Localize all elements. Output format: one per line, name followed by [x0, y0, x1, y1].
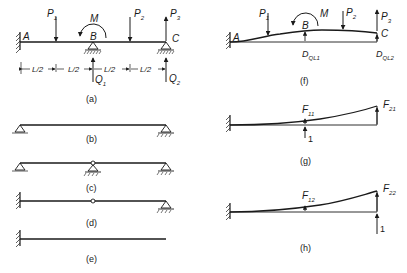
span-label-3: L/2 [104, 65, 116, 74]
label-p1: P1 [259, 8, 269, 21]
label-f12: F12 [302, 190, 315, 203]
hinge-icon [91, 199, 95, 203]
caption-g: (g) [300, 156, 311, 166]
label-p2: P2 [134, 8, 145, 21]
caption-h: (h) [300, 243, 311, 253]
label-q2: Q2 [169, 73, 181, 86]
unit-load-label: 1 [308, 134, 313, 144]
pin-support-icon [12, 163, 28, 171]
caption-d: (d) [86, 218, 97, 228]
panel-e [16, 230, 166, 247]
label-c: C [172, 33, 180, 44]
label-m: M [320, 8, 329, 19]
label-dql2: DQL2 [376, 49, 395, 61]
roller-support-b-icon [84, 42, 101, 54]
caption-b: (b) [86, 134, 97, 144]
label-f22: F22 [383, 183, 396, 196]
label-p2: P2 [346, 7, 357, 20]
label-p1: P1 [47, 8, 57, 21]
roller-support-icon [84, 165, 101, 176]
panel-c [12, 161, 174, 176]
label-p3: P3 [381, 11, 392, 24]
label-f11: F11 [302, 104, 314, 117]
span-label-1: L/2 [32, 65, 44, 74]
caption-c: (c) [86, 183, 97, 193]
label-m: M [90, 13, 99, 24]
caption-a: (a) [86, 94, 97, 104]
unit-load-label: 1 [380, 224, 385, 234]
label-dql1: DQL1 [302, 49, 320, 61]
label-f21: F21 [383, 99, 396, 112]
label-a: A [232, 32, 240, 43]
span-label-4: L/2 [140, 65, 152, 74]
deflected-beam [230, 30, 377, 42]
roller-support-icon [157, 125, 174, 137]
label-c: C [381, 28, 389, 39]
label-q1: Q1 [95, 74, 106, 87]
roller-support-icon [157, 163, 174, 175]
caption-f: (f) [300, 76, 309, 86]
caption-e: (e) [86, 254, 97, 264]
panel-d [16, 192, 174, 213]
roller-support-icon [157, 201, 174, 213]
pin-support-icon [12, 125, 28, 133]
label-a: A [22, 31, 30, 42]
structural-diagram: A B C M P1 P2 P3 Q1 Q2 L/2 L/2 L/2 L/2 (… [0, 0, 407, 273]
label-b: B [90, 31, 97, 42]
label-p3: P3 [170, 8, 181, 21]
span-label-2: L/2 [68, 65, 80, 74]
label-b: B [302, 20, 309, 31]
